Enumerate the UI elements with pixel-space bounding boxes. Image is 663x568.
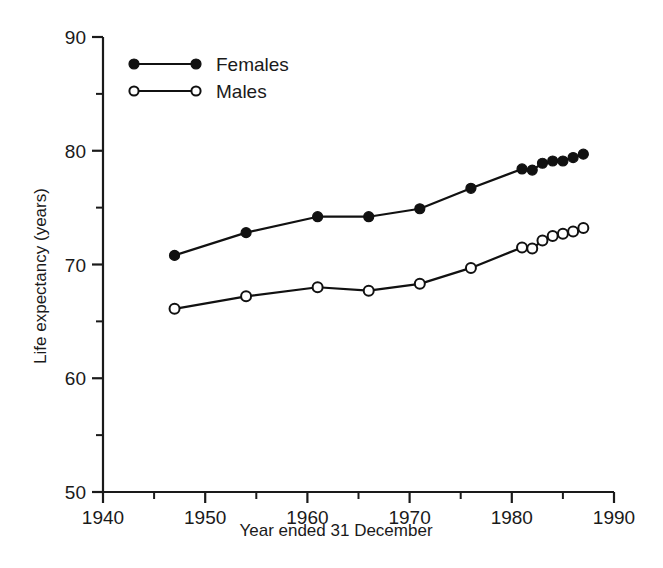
data-point <box>578 149 588 159</box>
data-point <box>558 229 568 239</box>
data-point <box>313 282 323 292</box>
data-point <box>537 158 547 168</box>
legend-label: Males <box>216 81 267 102</box>
y-axis-ticks <box>92 37 103 492</box>
data-point <box>578 223 588 233</box>
legend-marker-filled-circle-icon <box>129 59 139 69</box>
x-tick-label: 1940 <box>82 507 124 528</box>
legend-label: Females <box>216 54 289 75</box>
legend-marker-open-circle-icon <box>129 86 138 95</box>
data-point <box>568 153 578 163</box>
legend-item-females: Females <box>129 54 289 75</box>
y-tick-label: 70 <box>65 255 86 276</box>
data-point <box>241 228 251 238</box>
data-point <box>527 244 537 254</box>
data-point <box>466 183 476 193</box>
data-point <box>415 204 425 214</box>
data-point <box>313 212 323 222</box>
x-tick-label: 1990 <box>593 507 635 528</box>
data-point <box>537 236 547 246</box>
legend-marker-open-circle-icon <box>191 86 200 95</box>
series-line-males <box>175 228 584 309</box>
legend-marker-filled-circle-icon <box>191 59 201 69</box>
data-point <box>364 286 374 296</box>
y-tick-label: 80 <box>65 141 86 162</box>
x-axis-title: Year ended 31 December <box>239 521 432 540</box>
data-point <box>568 227 578 237</box>
axes-group <box>103 37 614 492</box>
data-point <box>548 156 558 166</box>
y-axis-title: Life expectancy (years) <box>31 188 50 364</box>
data-point <box>466 263 476 273</box>
y-tick-label: 50 <box>65 482 86 503</box>
data-point <box>170 250 180 260</box>
x-tick-label: 1980 <box>491 507 533 528</box>
chart-legend: FemalesMales <box>129 54 289 102</box>
chart-container: 194019501960197019801990 5060708090 Fema… <box>0 0 663 568</box>
data-point <box>170 304 180 314</box>
line-chart: 194019501960197019801990 5060708090 Fema… <box>0 0 663 568</box>
data-point <box>364 212 374 222</box>
x-axis-ticks <box>103 492 614 503</box>
axis-lines <box>103 37 614 492</box>
y-tick-label: 90 <box>65 27 86 48</box>
legend-item-males: Males <box>129 81 266 102</box>
data-series-group <box>170 149 589 314</box>
data-point <box>527 165 537 175</box>
data-point <box>241 291 251 301</box>
data-point <box>415 279 425 289</box>
y-tick-label: 60 <box>65 368 86 389</box>
data-point <box>517 164 527 174</box>
data-point <box>517 242 527 252</box>
data-point <box>558 156 568 166</box>
y-axis-tick-labels: 5060708090 <box>65 27 86 503</box>
x-tick-label: 1950 <box>184 507 226 528</box>
data-point <box>548 231 558 241</box>
